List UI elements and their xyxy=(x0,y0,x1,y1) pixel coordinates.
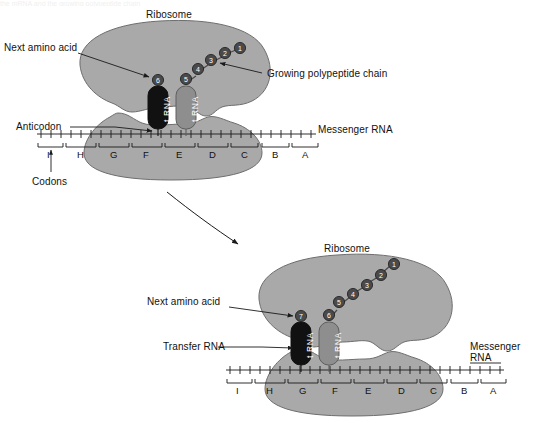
codon-letter-I-upper: I xyxy=(47,149,50,160)
codon-letter-F-lower: F xyxy=(332,385,338,396)
amino-acid-number-2-upper: 2 xyxy=(220,48,231,59)
codon-letter-C-upper: C xyxy=(241,149,248,160)
amino-acid-number-5-upper: 5 xyxy=(181,74,192,85)
amino-acid-number-2-lower: 2 xyxy=(376,270,387,281)
codon-letter-F-upper: F xyxy=(143,149,149,160)
trna-light-label-upper: t RNA xyxy=(190,96,200,122)
codon-letter-A-lower: A xyxy=(490,385,496,396)
label-messenger-rna-lower-line2: RNA xyxy=(470,352,491,364)
codon-letter-H-lower: H xyxy=(266,385,273,396)
label-messenger-rna-upper: Messenger RNA xyxy=(318,124,393,136)
label-ribosome-lower: Ribosome xyxy=(324,243,370,255)
amino-acid-number-6-lower: 6 xyxy=(324,310,335,321)
label-anticodon: Anticodon xyxy=(16,121,61,133)
amino-acid-number-7-lower: 7 xyxy=(296,311,307,322)
amino-acid-number-4-upper: 4 xyxy=(193,64,204,75)
codon-letter-H-upper: H xyxy=(77,149,84,160)
trna-dark-label-upper: t RNA xyxy=(162,96,172,122)
diagram-vector-layer xyxy=(0,0,536,435)
label-ribosome-upper: Ribosome xyxy=(146,9,192,21)
label-codons: Codons xyxy=(32,176,67,188)
amino-acid-number-3-upper: 3 xyxy=(206,55,217,66)
codon-letter-C-lower: C xyxy=(430,385,437,396)
amino-acid-number-1-lower: 1 xyxy=(389,259,400,270)
codon-letter-B-lower: B xyxy=(461,385,467,396)
trna-light-label-lower: t RNA xyxy=(333,332,343,358)
codon-letter-D-upper: D xyxy=(209,149,216,160)
codon-letter-G-upper: G xyxy=(110,149,117,160)
trna-dark-label-lower: t RNA xyxy=(305,332,315,358)
label-growing-polypeptide-chain: Growing polypeptide chain xyxy=(267,68,387,80)
ribosome-large-subunit-lower xyxy=(259,254,452,351)
label-transfer-rna: Transfer RNA xyxy=(163,341,225,353)
codon-letter-A-upper: A xyxy=(302,149,308,160)
amino-acid-number-6-upper: 6 xyxy=(153,75,164,86)
amino-acid-number-5-lower: 5 xyxy=(334,297,345,308)
amino-acid-number-4-lower: 4 xyxy=(348,289,359,300)
ribosome-small-subunit-upper xyxy=(84,113,262,180)
figure-canvas: the mRNA and the growing polypeptide cha… xyxy=(0,0,536,435)
amino-acid-number-3-lower: 3 xyxy=(362,280,373,291)
codon-letter-E-lower: E xyxy=(365,385,371,396)
label-next-amino-acid-lower: Next amino acid xyxy=(147,296,220,308)
label-messenger-rna-lower-line1: Messenger xyxy=(470,341,520,353)
label-next-amino-acid-upper: Next amino acid xyxy=(4,42,77,54)
amino-acid-number-1-upper: 1 xyxy=(235,43,246,54)
step-transition-arrow xyxy=(167,192,238,244)
codon-letter-E-upper: E xyxy=(176,149,182,160)
codon-letter-I-lower: I xyxy=(236,385,239,396)
codon-letter-D-lower: D xyxy=(398,385,405,396)
lower-ribosome-group xyxy=(259,254,452,416)
codon-letter-G-lower: G xyxy=(299,385,306,396)
codon-letter-B-upper: B xyxy=(272,149,278,160)
